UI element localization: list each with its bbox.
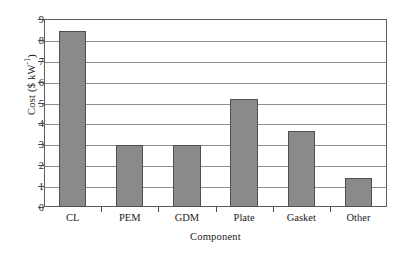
- x-axis-tick-label: Other: [330, 212, 387, 223]
- x-axis-tick-label: GDM: [158, 212, 215, 223]
- gridline: [45, 83, 386, 84]
- x-axis-tick-label: PEM: [101, 212, 158, 223]
- bar-chart-figure: Cost ($ kW-1) 9876543210 CLPEMGDMPlateGa…: [0, 0, 409, 256]
- x-axis-tick-label: Gasket: [273, 212, 330, 223]
- gridlines: [45, 20, 386, 206]
- gridline: [45, 41, 386, 42]
- x-axis-title: Component: [44, 231, 387, 242]
- gridline: [45, 145, 386, 146]
- gridline: [45, 62, 386, 63]
- y-axis-tick-mark: [38, 207, 44, 208]
- x-axis-tick-label: CL: [44, 212, 101, 223]
- plot-area: [44, 19, 387, 207]
- gridline: [45, 104, 386, 105]
- gridline: [45, 166, 386, 167]
- gridline: [45, 187, 386, 188]
- gridline: [45, 124, 386, 125]
- x-axis-tick-labels: CLPEMGDMPlateGasketOther: [44, 212, 387, 223]
- x-axis-tick-label: Plate: [216, 212, 273, 223]
